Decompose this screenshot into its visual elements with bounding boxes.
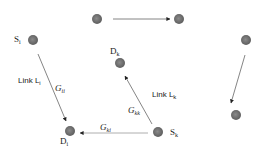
label-link-k: Link Lk xyxy=(152,90,176,102)
node-n2 xyxy=(174,14,184,24)
label-g-ki-sub: ki xyxy=(107,127,111,133)
label-si: Si xyxy=(14,34,21,47)
label-link-i: Link Li xyxy=(18,76,41,88)
label-sk-sub: k xyxy=(175,132,178,138)
node-dk xyxy=(115,58,125,68)
label-link-k-sub: k xyxy=(173,94,176,100)
label-g-ii: Gii xyxy=(55,83,65,96)
node-si xyxy=(28,35,38,45)
node-di xyxy=(65,126,75,136)
interference-diagram: Si Di Dk Sk Link Li Link Lk Gii Gkk Gki xyxy=(0,0,265,156)
label-g-ki: Gki xyxy=(100,122,111,135)
node-n3 xyxy=(241,35,251,45)
label-g-kk: Gkk xyxy=(128,105,140,118)
node-sk xyxy=(153,127,163,137)
edge-right-pair xyxy=(231,55,245,103)
label-si-sub: i xyxy=(19,39,21,45)
label-g-kk-sub: kk xyxy=(135,110,140,116)
label-di-sub: i xyxy=(67,141,69,147)
label-di: Di xyxy=(60,136,68,149)
label-dk-sub: k xyxy=(117,51,120,57)
node-n4 xyxy=(231,110,241,120)
label-g-ii-sub: ii xyxy=(62,88,65,94)
label-link-i-main: Link L xyxy=(18,76,39,85)
label-dk: Dk xyxy=(110,46,120,59)
label-link-k-main: Link L xyxy=(152,90,173,99)
label-sk: Sk xyxy=(170,127,178,140)
label-link-i-sub: i xyxy=(39,80,40,86)
node-n1 xyxy=(92,14,102,24)
